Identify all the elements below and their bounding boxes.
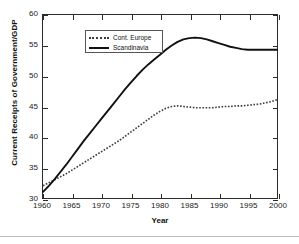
y-tick-label: 40 bbox=[29, 133, 38, 141]
y-tick-label: 55 bbox=[29, 41, 38, 49]
x-tick-mark bbox=[279, 15, 280, 20]
x-tick-mark bbox=[132, 15, 133, 20]
x-tick-mark bbox=[250, 194, 251, 199]
x-tick-label: 1975 bbox=[122, 201, 140, 210]
y-tick-mark bbox=[43, 138, 48, 139]
y-axis-tick-labels: 30354045505560 bbox=[0, 14, 40, 199]
x-tick-mark bbox=[43, 15, 44, 20]
x-tick-mark bbox=[161, 15, 162, 20]
legend-item-cont-europe: Cont. Europe bbox=[89, 33, 159, 42]
y-tick-mark bbox=[273, 138, 278, 139]
x-tick-mark bbox=[73, 194, 74, 199]
plot-area: Cont. Europe Scandinavia bbox=[42, 14, 278, 199]
y-tick-label: 50 bbox=[29, 72, 38, 80]
x-tick-mark bbox=[279, 194, 280, 199]
x-tick-mark bbox=[220, 15, 221, 20]
legend-item-scandinavia: Scandinavia bbox=[89, 43, 159, 52]
x-tick-mark bbox=[191, 194, 192, 199]
x-tick-label: 1965 bbox=[63, 201, 81, 210]
y-tick-mark bbox=[273, 46, 278, 47]
y-tick-mark bbox=[273, 77, 278, 78]
y-axis-title: Current Receipts of Government/GDP bbox=[10, 3, 19, 183]
y-tick-label: 35 bbox=[29, 164, 38, 172]
x-tick-mark bbox=[220, 194, 221, 199]
legend-label-cont-europe: Cont. Europe bbox=[113, 34, 151, 41]
x-tick-mark bbox=[102, 194, 103, 199]
footer-divider bbox=[0, 236, 299, 237]
x-tick-mark bbox=[43, 194, 44, 199]
x-tick-label: 2000 bbox=[269, 201, 287, 210]
x-tick-label: 1980 bbox=[151, 201, 169, 210]
y-tick-mark bbox=[273, 108, 278, 109]
x-tick-label: 1990 bbox=[210, 201, 228, 210]
x-tick-mark bbox=[250, 15, 251, 20]
chart-page: 30354045505560 Cont. Europe Scandinavia … bbox=[0, 0, 299, 244]
x-tick-label: 1995 bbox=[240, 201, 258, 210]
series-line-scandinavia bbox=[43, 38, 277, 192]
legend-swatch-dotted-icon bbox=[89, 37, 109, 39]
x-tick-mark bbox=[132, 194, 133, 199]
legend-swatch-solid-icon bbox=[89, 47, 109, 49]
y-tick-label: 45 bbox=[29, 103, 38, 111]
x-tick-label: 1960 bbox=[33, 201, 51, 210]
x-tick-mark bbox=[102, 15, 103, 20]
y-tick-mark bbox=[43, 46, 48, 47]
y-tick-mark bbox=[43, 77, 48, 78]
x-tick-mark bbox=[161, 194, 162, 199]
x-tick-mark bbox=[73, 15, 74, 20]
x-tick-label: 1970 bbox=[92, 201, 110, 210]
x-axis-title: Year bbox=[42, 216, 278, 225]
x-tick-mark bbox=[191, 15, 192, 20]
y-tick-mark bbox=[43, 108, 48, 109]
series-line-cont-europe bbox=[43, 100, 277, 186]
y-tick-mark bbox=[273, 169, 278, 170]
y-tick-mark bbox=[273, 15, 278, 16]
y-tick-mark bbox=[43, 169, 48, 170]
figure: 30354045505560 Cont. Europe Scandinavia … bbox=[0, 0, 299, 232]
y-tick-label: 60 bbox=[29, 10, 38, 18]
x-tick-label: 1985 bbox=[181, 201, 199, 210]
x-axis-tick-labels: 196019651970197519801985199019952000 bbox=[42, 201, 278, 213]
legend-label-scandinavia: Scandinavia bbox=[113, 44, 148, 51]
legend: Cont. Europe Scandinavia bbox=[85, 30, 163, 53]
